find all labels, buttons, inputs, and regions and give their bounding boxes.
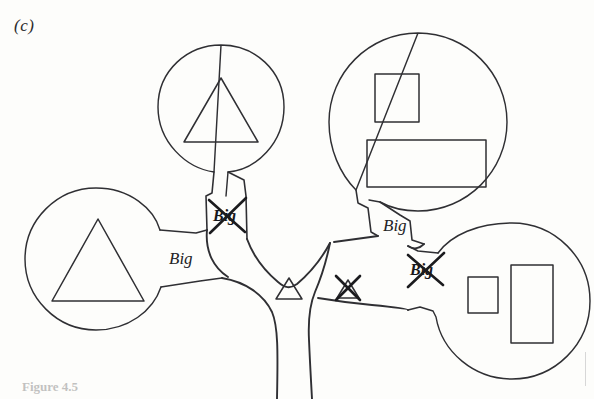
panel-label: (c) bbox=[14, 16, 34, 36]
stem-label-top-right: Big bbox=[383, 216, 407, 235]
small-triangle-mark bbox=[276, 278, 302, 299]
balloon-left-outline bbox=[25, 188, 161, 330]
stem-label-top-left: Big bbox=[209, 198, 246, 233]
balloon-top-left-outline bbox=[158, 45, 284, 196]
hand-drawn-diagram: Big Big Big Big bbox=[0, 0, 594, 399]
rectangle-tall-bottom-right bbox=[511, 265, 553, 343]
trunk-inner-left bbox=[207, 230, 228, 277]
stem-label-top-right-text: Big bbox=[383, 216, 407, 235]
balloon-node-top-right bbox=[329, 33, 507, 244]
trunk-inner-right bbox=[309, 243, 330, 399]
figure-page: Big Big Big Big (c) Figure 4.5 bbox=[0, 0, 594, 399]
rectangle-wide-top-right bbox=[367, 140, 486, 187]
stem-label-left: Big bbox=[169, 249, 193, 268]
small-triangle-outline bbox=[276, 278, 302, 299]
figure-caption: Figure 4.5 bbox=[22, 379, 78, 395]
trunk-structure bbox=[207, 230, 424, 399]
balloon-left-stem-top bbox=[160, 230, 207, 233]
stem-label-left-text: Big bbox=[169, 249, 193, 268]
square-small-top-right bbox=[375, 74, 419, 122]
balloon-top-right-stem-left bbox=[356, 190, 378, 236]
struck-triangle-mark bbox=[336, 276, 360, 300]
square-small-bottom-right bbox=[468, 277, 498, 313]
stem-label-bottom-right: Big bbox=[408, 253, 444, 287]
balloon-bottom-right-stem-top bbox=[408, 246, 438, 253]
triangle-large-left bbox=[52, 219, 144, 301]
balloon-bottom-right-outline bbox=[408, 223, 590, 379]
trunk-branch-left bbox=[222, 278, 277, 399]
balloon-left-stem-bottom bbox=[161, 278, 222, 287]
triangle-large-top-left bbox=[184, 78, 258, 142]
trunk-connector-top-right bbox=[334, 236, 378, 242]
page-edge-rule bbox=[585, 352, 586, 386]
balloon-node-bottom-right bbox=[408, 223, 590, 379]
trunk-branch-right bbox=[318, 298, 408, 310]
trunk-connector-top-right-lower bbox=[408, 244, 424, 248]
